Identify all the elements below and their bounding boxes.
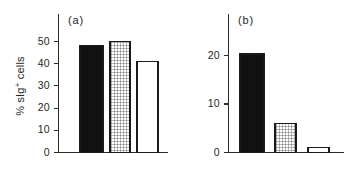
panel-a-ytick-label-20: 20: [38, 101, 50, 113]
panel-b-bar-3: [308, 148, 329, 153]
panel-b-ytick-label-0: 0: [214, 146, 220, 158]
panel-a-ytick-label-10: 10: [38, 123, 50, 135]
panel-b-label: (b): [238, 14, 254, 26]
y-axis-title-suffix: cells: [14, 56, 26, 83]
panel-b-bar-1: [240, 54, 264, 153]
panel-a-y-axis-title: % sIg+ cells: [13, 56, 26, 116]
y-axis-title-prefix: % sIg: [14, 87, 26, 116]
panel-b-bar-2: [275, 123, 296, 152]
panel-a-bar-3: [137, 62, 158, 153]
panel-b-ytick-label-10: 10: [208, 97, 220, 109]
panel-a-ytick-label-50: 50: [38, 35, 50, 47]
panel-a-ytick-label-40: 40: [38, 57, 50, 69]
panel-a: 0 10 20 30 40 50 % sIg+ cells (a): [13, 14, 168, 158]
panel-a-label: (a): [68, 14, 84, 26]
panel-a-bar-2: [110, 42, 130, 153]
panel-b-ytick-label-20: 20: [208, 49, 220, 61]
svg-text:% sIg+ cells: % sIg+ cells: [13, 56, 26, 116]
panel-a-bar-1: [80, 45, 103, 152]
figure-svg: 0 10 20 30 40 50 % sIg+ cells (a): [0, 0, 352, 172]
figure-container: 0 10 20 30 40 50 % sIg+ cells (a): [0, 0, 352, 172]
panel-a-ytick-label-30: 30: [38, 79, 50, 91]
panel-a-ytick-label-0: 0: [44, 146, 50, 158]
panel-b: 0 10 20 (b): [208, 14, 344, 158]
